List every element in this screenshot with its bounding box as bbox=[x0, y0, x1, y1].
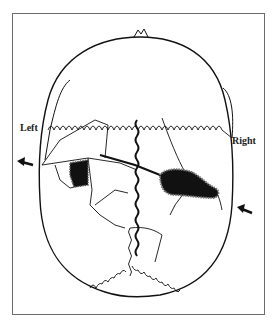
label-left: Left bbox=[20, 122, 38, 133]
fracture-fragment-inner bbox=[95, 190, 128, 205]
arrow-left-icon bbox=[17, 157, 33, 166]
sagittal-suture bbox=[136, 120, 139, 256]
left-ear bbox=[45, 80, 70, 160]
skull-diagram bbox=[0, 0, 279, 326]
hemorrhage-left bbox=[70, 160, 88, 187]
nasal-bone bbox=[134, 29, 148, 37]
arrow-right-icon bbox=[237, 204, 252, 213]
coronal-suture bbox=[48, 126, 232, 138]
lambdoid-suture bbox=[90, 266, 180, 292]
fracture-line-right-lower bbox=[130, 227, 162, 262]
label-right: Right bbox=[232, 135, 256, 146]
fracture-line-right bbox=[162, 118, 185, 172]
sagittal-suture-lower bbox=[129, 228, 132, 276]
fracture-fragment-center bbox=[88, 158, 125, 228]
hemorrhage-right bbox=[160, 169, 218, 198]
skull-outline bbox=[39, 37, 232, 297]
